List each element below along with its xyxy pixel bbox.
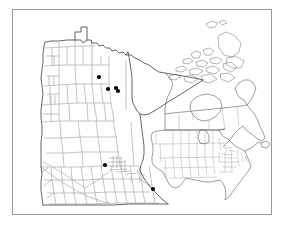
arctic-islands: [169, 20, 244, 83]
occurrence-point: [106, 87, 110, 91]
occurrence-point: [116, 89, 120, 93]
distribution-map-canvas: [13, 10, 273, 216]
united-states-outline: [151, 129, 261, 200]
north-america-inset: [151, 20, 270, 200]
occurrence-point: [103, 163, 107, 167]
canada-outline: [165, 73, 270, 148]
minnesota-state-outline: [41, 27, 203, 205]
map-frame: [12, 9, 272, 215]
figure-root: [0, 0, 286, 234]
occurrence-point: [97, 75, 101, 79]
occurrence-point: [151, 187, 155, 191]
